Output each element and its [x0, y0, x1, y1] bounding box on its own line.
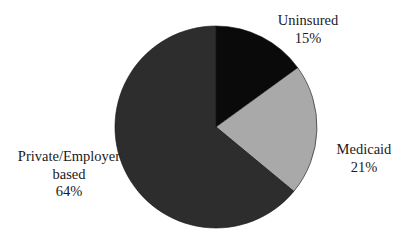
label-uninsured-name: Uninsured: [278, 12, 338, 30]
label-uninsured-value: 15%: [278, 30, 338, 48]
label-uninsured: Uninsured 15%: [278, 12, 338, 47]
label-medicaid: Medicaid 21%: [337, 141, 392, 176]
label-private-employer: Private/Employer based 64%: [18, 148, 120, 201]
label-private-employer-name-line1: Private/Employer: [18, 148, 120, 166]
label-private-employer-name-line2: based: [18, 166, 120, 184]
label-private-employer-value: 64%: [18, 183, 120, 201]
label-medicaid-name: Medicaid: [337, 141, 392, 159]
label-medicaid-value: 21%: [337, 159, 392, 177]
